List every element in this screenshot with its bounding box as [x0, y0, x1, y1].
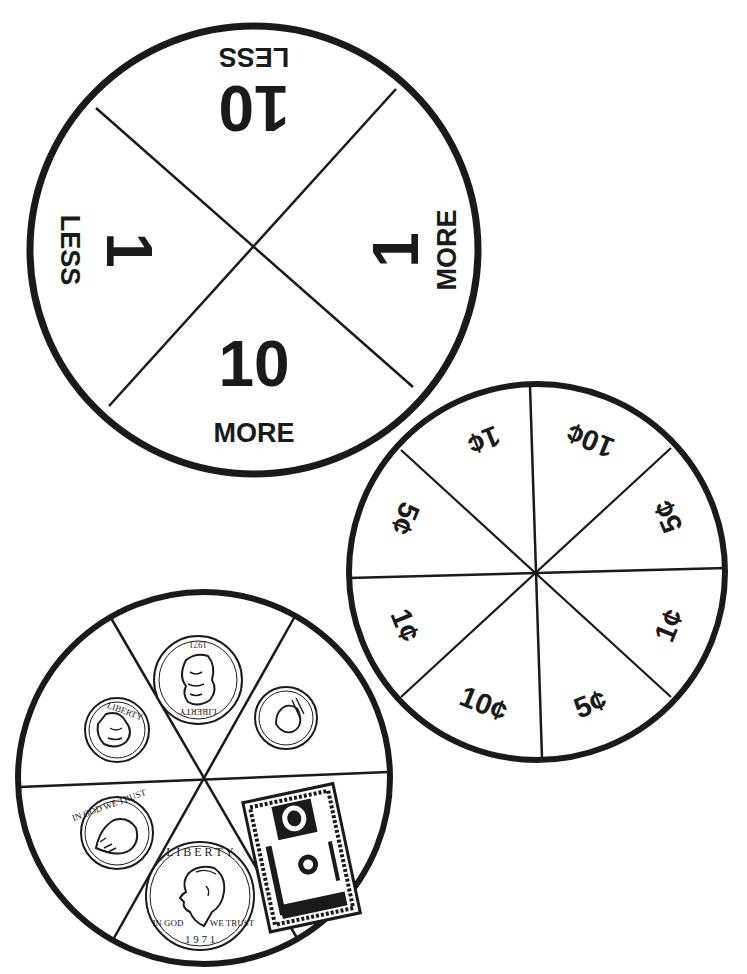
- section-word: LESS: [55, 215, 85, 286]
- section-number: 1: [360, 232, 432, 268]
- money-spinner: LIBERTY 1971 LIBERTY IN GOD WE TRUST: [18, 592, 390, 964]
- svg-text:1 9 7 1: 1 9 7 1: [185, 933, 215, 945]
- svg-text:WE TRUST: WE TRUST: [210, 918, 255, 928]
- section-word: LESS: [219, 42, 290, 72]
- section-top: 10 LESS: [218, 42, 289, 144]
- svg-text:L I B E R T Y: L I B E R T Y: [166, 845, 234, 859]
- section-number: 1: [93, 232, 165, 268]
- penny-coin-icon: [255, 687, 317, 749]
- section-number: 10: [218, 72, 289, 144]
- cents-spinner: 10¢ 5¢ 1¢ 5¢ 10¢ 1¢ 5¢ 1¢: [349, 384, 726, 760]
- half-dollar-coin-icon: IN GOD WE TRUST 1 9 7 1 L I B E R T Y: [146, 842, 255, 950]
- dime-coin-icon: LIBERTY: [85, 698, 149, 762]
- section-word: MORE: [214, 418, 295, 448]
- svg-text:IN GOD: IN GOD: [152, 918, 184, 928]
- section-number: 10: [218, 328, 289, 400]
- more-less-spinner: 10 LESS 1 MORE 10 MORE 1 LESS: [30, 26, 478, 474]
- section-word: MORE: [432, 210, 462, 291]
- quarter-coin-icon: LIBERTY 1971: [154, 636, 242, 724]
- section-bottom: 10 MORE: [214, 328, 295, 448]
- svg-text:LIBERTY: LIBERTY: [179, 707, 217, 717]
- svg-text:1971: 1971: [189, 640, 207, 650]
